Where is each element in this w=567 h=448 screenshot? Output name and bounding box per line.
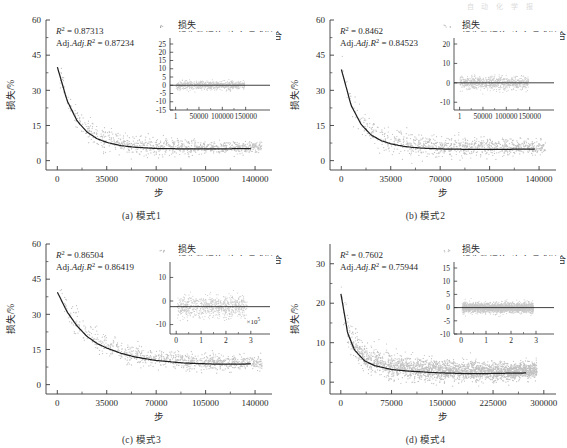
svg-text:-5: -5 [444, 317, 450, 326]
svg-text:35000: 35000 [379, 174, 402, 184]
panel-b-caption: (b) 模式2 [284, 208, 567, 222]
svg-text:30: 30 [316, 259, 326, 269]
svg-text:15: 15 [443, 264, 451, 273]
panel-a-caption: (a) 模式1 [0, 208, 283, 222]
svg-text:0: 0 [321, 377, 326, 387]
svg-text:1: 1 [199, 336, 203, 345]
svg-text:100000: 100000 [495, 112, 518, 121]
svg-text:2: 2 [509, 336, 513, 345]
svg-text:损失: 损失 [462, 19, 480, 30]
svg-text:60: 60 [32, 15, 42, 25]
svg-text:步: 步 [154, 188, 164, 198]
svg-text:损失: 损失 [178, 19, 196, 30]
svg-text:R2 = 0.7602: R2 = 0.7602 [339, 249, 383, 261]
svg-text:5: 5 [446, 290, 450, 299]
svg-text:R2 = 0.87313: R2 = 0.87313 [55, 25, 104, 37]
svg-text:30: 30 [32, 310, 42, 320]
svg-text:0: 0 [55, 174, 60, 184]
svg-text:Adj.Adj.R2 = 0.86419: Adj.Adj.R2 = 0.86419 [56, 261, 135, 273]
svg-text:20: 20 [443, 40, 451, 49]
svg-text:0: 0 [321, 156, 326, 166]
svg-text:0: 0 [459, 336, 463, 345]
svg-text:300000: 300000 [530, 398, 558, 408]
svg-text:损失: 损失 [462, 243, 480, 254]
svg-text:10: 10 [159, 273, 167, 282]
svg-text:105000: 105000 [192, 174, 220, 184]
svg-text:20: 20 [316, 298, 326, 308]
svg-text:Adj.Adj.R2 = 0.87234: Adj.Adj.R2 = 0.87234 [56, 37, 135, 49]
svg-text:10: 10 [443, 277, 451, 286]
panel-c: 01530456003500070000105000140000步损失/%R2 … [0, 224, 283, 448]
svg-text:-15: -15 [156, 106, 166, 115]
svg-text:-10: -10 [440, 98, 450, 107]
svg-text:损失/%: 损失/% [5, 80, 16, 111]
svg-text:105000: 105000 [192, 398, 220, 408]
svg-text:0: 0 [339, 398, 344, 408]
svg-text:损失: 损失 [178, 243, 196, 254]
svg-text:150000: 150000 [429, 398, 457, 408]
svg-text:损失/%: 损失/% [289, 304, 300, 335]
svg-text:损失/%: 损失/% [5, 304, 16, 335]
panel-b-plot: 01530456003500070000105000140000步损失/%R2 … [284, 0, 567, 224]
svg-text:150000: 150000 [234, 112, 257, 121]
svg-text:35000: 35000 [95, 398, 118, 408]
svg-text:30: 30 [32, 86, 42, 96]
svg-text:45: 45 [32, 274, 42, 284]
svg-text:140000: 140000 [242, 174, 270, 184]
svg-text:15: 15 [32, 345, 42, 355]
svg-text:1: 1 [458, 112, 462, 121]
svg-text:50000: 50000 [474, 112, 493, 121]
svg-text:140000: 140000 [242, 398, 270, 408]
svg-text:70000: 70000 [145, 398, 168, 408]
svg-text:步: 步 [438, 188, 448, 198]
svg-text:15: 15 [32, 121, 42, 131]
svg-text:0: 0 [55, 398, 60, 408]
svg-text:1: 1 [484, 336, 488, 345]
svg-text:70000: 70000 [429, 174, 452, 184]
svg-text:60: 60 [32, 239, 42, 249]
svg-text:10: 10 [316, 338, 326, 348]
svg-text:15: 15 [316, 121, 326, 131]
svg-text:损失/%: 损失/% [289, 80, 300, 111]
svg-text:0: 0 [339, 174, 344, 184]
panel-d-plot: 0102030075000150000225000300000步损失/%R2 =… [284, 224, 567, 448]
svg-text:0: 0 [162, 297, 166, 306]
figure-loss-curves: 自 动 化 学 报 015304560035000700001050001400… [0, 0, 567, 448]
svg-text:1: 1 [174, 112, 178, 121]
svg-text:150000: 150000 [518, 112, 541, 121]
svg-text:Adj.Adj.R2 = 0.75944: Adj.Adj.R2 = 0.75944 [340, 261, 419, 273]
svg-text:75000: 75000 [380, 398, 403, 408]
panel-a: 01530456003500070000105000140000步损失/%R2 … [0, 0, 283, 224]
svg-text:45: 45 [32, 50, 42, 60]
svg-text:步: 步 [438, 412, 448, 422]
svg-text:10: 10 [443, 59, 451, 68]
svg-text:70000: 70000 [145, 174, 168, 184]
svg-text:Adj.Adj.R2 = 0.84523: Adj.Adj.R2 = 0.84523 [340, 37, 419, 49]
svg-text:-10: -10 [440, 330, 450, 339]
svg-text:105000: 105000 [476, 174, 504, 184]
svg-text:0: 0 [37, 380, 42, 390]
svg-text:35000: 35000 [95, 174, 118, 184]
svg-text:0: 0 [174, 336, 178, 345]
svg-text:0: 0 [446, 79, 450, 88]
svg-text:步: 步 [154, 412, 164, 422]
panel-b: 01530456003500070000105000140000步损失/%R2 … [284, 0, 567, 224]
svg-text:50000: 50000 [190, 112, 209, 121]
svg-text:225000: 225000 [480, 398, 508, 408]
panel-d-caption: (d) 模式4 [284, 432, 567, 446]
svg-text:3: 3 [249, 336, 253, 345]
panel-c-caption: (c) 模式3 [0, 432, 283, 446]
svg-text:2: 2 [224, 336, 228, 345]
svg-text:3: 3 [534, 336, 538, 345]
svg-text:45: 45 [316, 50, 326, 60]
svg-text:-10: -10 [156, 320, 166, 329]
svg-text:0: 0 [37, 156, 42, 166]
svg-text:140000: 140000 [526, 174, 554, 184]
panel-d: 0102030075000150000225000300000步损失/%R2 =… [284, 224, 567, 448]
svg-text:R2 = 0.86504: R2 = 0.86504 [55, 249, 104, 261]
panel-c-plot: 01530456003500070000105000140000步损失/%R2 … [0, 224, 283, 448]
svg-text:0: 0 [446, 303, 450, 312]
svg-text:100000: 100000 [211, 112, 234, 121]
panel-a-plot: 01530456003500070000105000140000步损失/%R2 … [0, 0, 283, 224]
svg-text:60: 60 [316, 15, 326, 25]
